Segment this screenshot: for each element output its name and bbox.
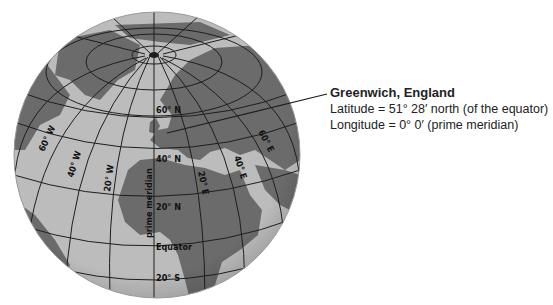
greenwich-annotation: Greenwich, England Latitude = 51° 28′ no… <box>330 85 548 133</box>
label-prime-meridian: prime meridian <box>144 168 154 238</box>
label-20n: 20° N <box>156 202 181 212</box>
annotation-title: Greenwich, England <box>330 85 548 101</box>
annotation-latitude: Latitude = 51° 28′ north (of the equator… <box>330 101 548 117</box>
label-20s: 20° S <box>156 273 180 283</box>
globe: 60° N 40° N 20° N Equator 20° S prime me… <box>0 0 553 305</box>
north-pole <box>149 52 159 58</box>
annotation-longitude: Longitude = 0° 0′ (prime meridian) <box>330 117 548 133</box>
label-equator: Equator <box>156 242 192 252</box>
label-40n: 40° N <box>156 154 181 164</box>
label-60n: 60° N <box>156 105 181 115</box>
